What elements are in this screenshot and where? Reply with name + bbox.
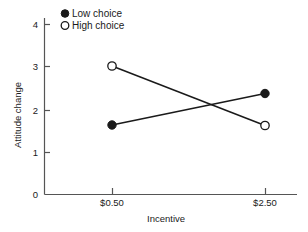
x-tick-label-250: $2.50: [242, 198, 288, 208]
y-tick-label-3: 3: [24, 62, 38, 72]
legend-label-high-choice: High choice: [72, 21, 124, 31]
series-line-high-choice: [112, 66, 265, 126]
legend-marker-filled-circle: [61, 10, 69, 18]
point-high-choice-250: [261, 121, 269, 129]
x-tick-label-050: $0.50: [89, 198, 135, 208]
legend-label-low-choice: Low choice: [72, 9, 122, 19]
y-tick-label-2: 2: [24, 106, 38, 116]
y-tick-label-0: 0: [24, 190, 38, 200]
point-low-choice-050: [108, 121, 116, 129]
y-axis-ticks: [45, 25, 51, 153]
legend-marker-open-circle: [61, 22, 69, 30]
attitude-change-chart: 4 3 2 1 0 $0.50 $2.50 Attitude change In…: [0, 0, 308, 232]
y-tick-label-4: 4: [24, 20, 38, 30]
y-axis-title: Attitude change: [13, 82, 23, 148]
x-axis-title: Incentive: [147, 214, 185, 224]
series-line-low-choice: [112, 94, 265, 126]
x-axis-ticks: [113, 188, 266, 195]
point-low-choice-250: [261, 89, 269, 97]
point-high-choice-050: [108, 62, 116, 70]
y-tick-label-1: 1: [24, 148, 38, 158]
